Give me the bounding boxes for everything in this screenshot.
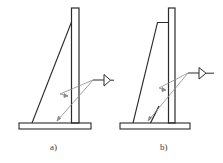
vertical-plate-a bbox=[72, 8, 80, 123]
fillet-weld-icon-a bbox=[104, 75, 111, 87]
base-plate-a bbox=[19, 123, 91, 129]
corner-brace-b bbox=[151, 106, 160, 123]
base-plate-b bbox=[120, 123, 190, 129]
panel-a bbox=[19, 8, 114, 129]
weld-leader-a bbox=[57, 80, 93, 121]
weld-diagram: a) b) bbox=[0, 0, 223, 163]
fillet-weld-icon-b bbox=[199, 68, 206, 80]
weld-symbol-b bbox=[188, 68, 214, 80]
panel-label-a: a) bbox=[50, 143, 57, 152]
gusset-edge-a bbox=[32, 22, 72, 123]
panel-b bbox=[120, 8, 214, 129]
vertical-plate-b bbox=[169, 8, 176, 123]
panel-label-b: b) bbox=[160, 143, 168, 152]
gusset-edge-b bbox=[133, 23, 169, 124]
weld-symbol-a bbox=[93, 75, 114, 87]
